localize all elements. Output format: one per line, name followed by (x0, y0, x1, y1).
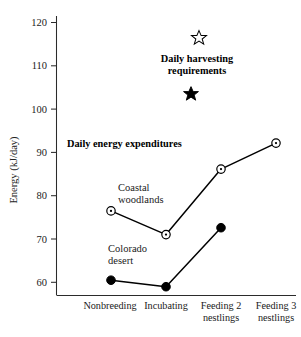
colorado-desert-point-feeding-2 (217, 223, 226, 232)
energy-expenditure-line-chart: Energy (kJ/day) 60 70 80 90 100 110 120 (0, 0, 301, 337)
colorado-desert-point-incubating (162, 282, 171, 291)
x-label-feeding-3-line2: nestlings (258, 312, 294, 323)
annotation-daily-energy-expenditures: Daily energy expenditures (67, 138, 182, 149)
coastal-woodlands-point-feeding-2 (217, 165, 225, 173)
x-label-feeding-2-line1: Feeding 2 (201, 300, 241, 311)
harvesting-annotation-line1: Daily harvesting (161, 53, 234, 64)
coastal-woodlands-label-line1: Coastal (118, 182, 150, 193)
y-tick-label-110: 110 (32, 60, 47, 71)
x-label-incubating-line1: Incubating (144, 300, 188, 311)
y-axis-title: Energy (kJ/day) (8, 136, 20, 204)
colorado-desert-label-line1: Colorado (108, 243, 147, 254)
y-tick-label-70: 70 (37, 234, 48, 245)
figure-container: Energy (kJ/day) 60 70 80 90 100 110 120 (0, 0, 301, 337)
y-tick-label-120: 120 (31, 17, 47, 28)
coastal-woodlands-point-feeding-3 (272, 139, 280, 147)
coastal-woodlands-label-line2: woodlands (118, 194, 164, 205)
coastal-woodlands-point-incubating (162, 230, 170, 238)
x-label-feeding-3-line1: Feeding 3 (256, 300, 296, 311)
colorado-desert-point-nonbreeding (107, 276, 116, 285)
colorado-desert-label-line2: desert (108, 255, 133, 266)
coastal-woodlands-point-nonbreeding (107, 207, 115, 215)
x-label-feeding-2-line2: nestlings (203, 312, 239, 323)
x-label-nonbreeding-line1: Nonbreeding (83, 300, 136, 311)
y-tick-label-60: 60 (37, 277, 48, 288)
harvesting-annotation-line2: requirements (168, 65, 227, 76)
y-tick-label-100: 100 (31, 104, 47, 115)
annotation-daily-harvesting-requirements: Daily harvesting requirements (161, 53, 234, 76)
y-tick-label-90: 90 (37, 147, 48, 158)
y-tick-label-80: 80 (37, 190, 48, 201)
